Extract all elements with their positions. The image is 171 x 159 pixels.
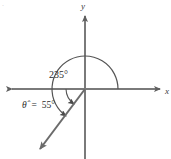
corner-mark: · bbox=[2, 3, 4, 9]
x-axis-label: x bbox=[164, 86, 169, 96]
angle-label-235: 235° bbox=[49, 69, 68, 80]
terminal-ray bbox=[40, 89, 85, 149]
coordinate-plane-diagram: y x 235° θ̂ = 55° · bbox=[0, 0, 171, 159]
reference-angle-label: θ̂ = 55° bbox=[22, 100, 55, 110]
angle-diagram-screenshot: y x 235° θ̂ = 55° · bbox=[0, 0, 171, 159]
equals-symbol: = bbox=[32, 100, 37, 110]
y-axis-label: y bbox=[80, 1, 85, 11]
svg-text:θ̂ = 55°: θ̂ = 55° bbox=[22, 100, 55, 110]
reference-angle-value: 55° bbox=[42, 100, 56, 110]
reference-angle-arc-55 bbox=[66, 89, 74, 104]
theta-symbol: θ̂ bbox=[22, 100, 31, 110]
